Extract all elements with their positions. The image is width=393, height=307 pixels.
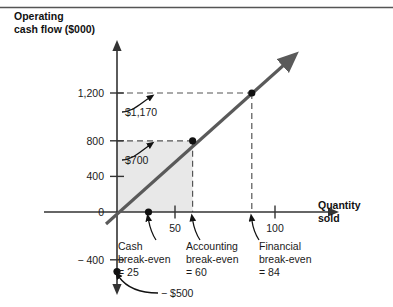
leader-neg500 bbox=[119, 277, 158, 293]
x-tick-label-50: 50 bbox=[169, 222, 181, 234]
y-tick-label-0: 0 bbox=[98, 206, 104, 218]
x-tick-label-100: 100 bbox=[266, 222, 284, 234]
financial-break-even-line2: break-even bbox=[259, 253, 312, 265]
point-accounting-break-even bbox=[189, 137, 196, 144]
cash-break-even-line2: break-even bbox=[118, 253, 171, 265]
x-axis-title-line2: sold bbox=[318, 212, 340, 224]
y-axis-title-line1: Operating bbox=[14, 10, 64, 22]
cash-break-even-line3: = 25 bbox=[118, 266, 139, 278]
leader-cash-break-even bbox=[149, 220, 157, 240]
y-tick-label-800: 800 bbox=[86, 135, 104, 147]
point-cash-break-even bbox=[145, 208, 152, 215]
cash-break-even-line1: Cash bbox=[118, 240, 143, 252]
callout-neg500-label: − $500 bbox=[161, 287, 194, 299]
leader-financial-break-even bbox=[252, 220, 259, 240]
accounting-break-even-line3: = 60 bbox=[186, 266, 207, 278]
callout-1170-label: $1,170 bbox=[125, 106, 157, 118]
y-tick-label-1200: 1,200 bbox=[78, 87, 104, 99]
point-financial-break-even bbox=[248, 89, 255, 96]
y-axis-title-line2: cash flow ($000) bbox=[14, 23, 95, 35]
x-axis-title-line1: Quantity bbox=[318, 199, 361, 211]
financial-break-even-line1: Financial bbox=[259, 240, 301, 252]
y-tick-label-neg400: − 400 bbox=[77, 254, 104, 266]
leader-accounting-break-even bbox=[193, 220, 200, 240]
shaded-contribution-region bbox=[117, 141, 193, 212]
y-tick-label-400: 400 bbox=[86, 170, 104, 182]
accounting-break-even-line2: break-even bbox=[186, 253, 239, 265]
operating-cash-flow-chart: Operating cash flow ($000) Quantity sold… bbox=[0, 0, 393, 307]
accounting-break-even-line1: Accounting bbox=[186, 240, 238, 252]
callout-700-label: $700 bbox=[125, 154, 149, 166]
chart-figure: Operating cash flow ($000) Quantity sold… bbox=[0, 0, 393, 307]
y-axis-up-arrow-icon bbox=[112, 40, 121, 51]
y-axis-down-arrow-icon bbox=[112, 284, 121, 295]
financial-break-even-line3: = 84 bbox=[259, 266, 280, 278]
